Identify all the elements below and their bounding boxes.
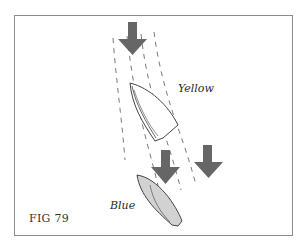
yellow-boat-label: Yellow bbox=[178, 82, 214, 95]
arrow-icon-right bbox=[194, 145, 223, 178]
blue-boat-label: Blue bbox=[110, 199, 135, 212]
figure-label: FIG 79 bbox=[29, 212, 69, 225]
arrow-icon-middle bbox=[151, 150, 180, 184]
arrow-icon-top bbox=[118, 22, 147, 55]
blue-boat-icon bbox=[137, 175, 182, 226]
yellow-boat-icon bbox=[130, 83, 178, 141]
